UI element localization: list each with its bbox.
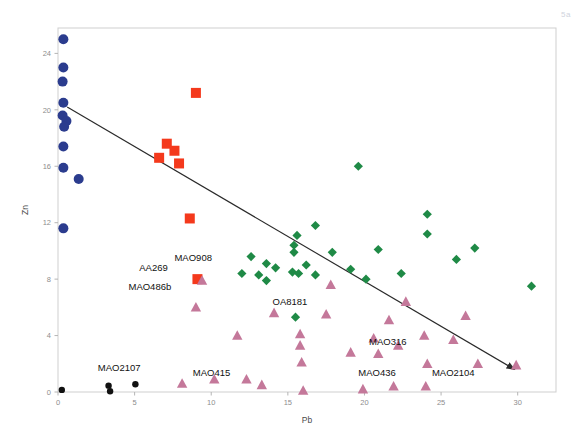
data-point-green-diamonds — [397, 269, 406, 278]
data-point-pink-triangles — [326, 279, 336, 289]
y-axis-title: Zn — [20, 205, 30, 215]
data-point-blue-circles — [58, 163, 68, 173]
data-point-blue-circles — [58, 223, 68, 233]
point-label: AA269 — [139, 262, 168, 273]
data-point-green-diamonds — [271, 263, 280, 272]
y-tick-label: 24 — [43, 49, 51, 58]
point-label: MAO908 — [174, 252, 212, 263]
data-point-green-diamonds — [328, 248, 337, 257]
trendline — [67, 107, 514, 369]
data-points — [58, 34, 536, 395]
axis-ticks: 05101520253004812162024 — [43, 49, 522, 407]
figure-tag: 5a — [561, 10, 571, 19]
x-tick-label: 25 — [437, 398, 445, 407]
data-point-pink-triangles — [358, 384, 368, 394]
point-label: MAO486b — [128, 281, 171, 292]
data-point-blue-circles — [74, 174, 84, 184]
data-point-black-circles — [105, 382, 111, 388]
data-point-green-diamonds — [302, 260, 311, 269]
data-point-red-squares — [191, 88, 201, 98]
data-point-blue-circles — [58, 142, 68, 152]
data-point-green-diamonds — [361, 275, 370, 284]
data-point-pink-triangles — [421, 381, 431, 391]
data-point-red-squares — [185, 213, 195, 223]
data-point-blue-circles — [58, 34, 68, 44]
data-point-red-squares — [174, 158, 184, 168]
data-point-blue-circles — [59, 122, 69, 132]
data-point-blue-circles — [58, 77, 68, 87]
data-point-green-diamonds — [470, 243, 479, 252]
data-point-black-circles — [132, 381, 138, 387]
x-tick-label: 5 — [133, 398, 137, 407]
x-tick-label: 20 — [360, 398, 368, 407]
point-annotations: MAO908AA269MAO486bOA8181MAO2107MAO415MAO… — [98, 252, 475, 379]
point-label: OA8181 — [273, 296, 308, 307]
point-label: MAO2107 — [98, 362, 141, 373]
data-point-black-circles — [107, 388, 113, 394]
data-point-green-diamonds — [311, 221, 320, 230]
data-point-green-diamonds — [294, 269, 303, 278]
y-tick-label: 8 — [47, 275, 51, 284]
scatter-plot: 05101520253004812162024 MAO908AA269MAO48… — [0, 0, 581, 442]
data-point-pink-triangles — [257, 380, 267, 390]
data-point-pink-triangles — [345, 347, 355, 357]
data-point-pink-triangles — [388, 381, 398, 391]
data-point-blue-circles — [58, 63, 68, 73]
data-point-pink-triangles — [232, 330, 242, 340]
data-point-green-diamonds — [289, 248, 298, 257]
point-label: MAO436 — [358, 367, 396, 378]
data-point-green-diamonds — [354, 162, 363, 171]
point-label: MAO415 — [193, 367, 231, 378]
y-tick-label: 20 — [43, 106, 51, 115]
data-point-pink-triangles — [419, 330, 429, 340]
data-point-green-diamonds — [423, 210, 432, 219]
data-point-pink-triangles — [373, 349, 383, 359]
data-point-green-diamonds — [254, 270, 263, 279]
x-tick-label: 15 — [284, 398, 292, 407]
data-point-green-diamonds — [292, 231, 301, 240]
y-tick-label: 12 — [43, 218, 51, 227]
data-point-green-diamonds — [527, 282, 536, 291]
data-point-red-squares — [154, 153, 164, 163]
data-point-pink-triangles — [384, 315, 394, 325]
data-point-pink-triangles — [269, 308, 279, 318]
data-point-pink-triangles — [177, 378, 187, 388]
y-tick-label: 4 — [47, 331, 51, 340]
data-point-pink-triangles — [511, 360, 521, 370]
data-point-pink-triangles — [298, 385, 308, 395]
data-point-black-circles — [59, 387, 65, 393]
data-point-green-diamonds — [374, 245, 383, 254]
figure-canvas: 5a 05101520253004812162024 MAO908AA269MA… — [0, 0, 581, 442]
data-point-pink-triangles — [296, 357, 306, 367]
x-tick-label: 0 — [56, 398, 60, 407]
data-point-pink-triangles — [241, 374, 251, 384]
data-point-green-diamonds — [452, 255, 461, 264]
data-point-green-diamonds — [311, 270, 320, 279]
data-point-pink-triangles — [401, 296, 411, 306]
data-point-red-squares — [169, 146, 179, 156]
data-point-blue-circles — [58, 98, 68, 108]
data-point-green-diamonds — [262, 276, 271, 285]
y-tick-label: 0 — [47, 388, 51, 397]
point-label: MAO2104 — [432, 367, 475, 378]
data-point-green-diamonds — [237, 269, 246, 278]
y-tick-label: 16 — [43, 162, 51, 171]
point-label: MAO316 — [369, 336, 407, 347]
x-tick-label: 10 — [207, 398, 215, 407]
x-axis-title: Pb — [302, 415, 313, 425]
data-point-pink-triangles — [321, 309, 331, 319]
data-point-green-diamonds — [262, 259, 271, 268]
data-point-pink-triangles — [295, 340, 305, 350]
data-point-green-diamonds — [246, 252, 255, 261]
data-point-green-diamonds — [346, 265, 355, 274]
data-point-green-diamonds — [423, 229, 432, 238]
x-tick-label: 30 — [514, 398, 522, 407]
data-point-green-diamonds — [291, 313, 300, 322]
plot-frame — [58, 28, 556, 392]
data-point-pink-triangles — [191, 302, 201, 312]
data-point-pink-triangles — [460, 310, 470, 320]
data-point-pink-triangles — [295, 329, 305, 339]
